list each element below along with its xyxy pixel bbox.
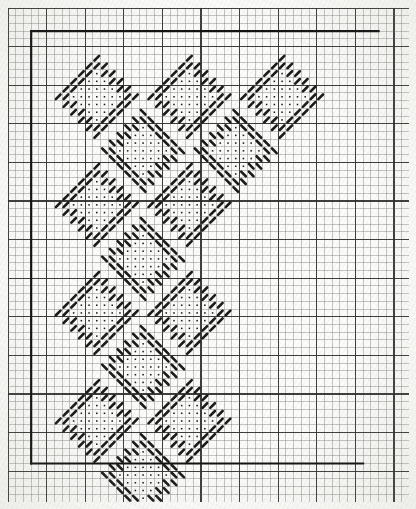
- slash-stitch: [303, 79, 308, 84]
- slash-stitch: [102, 233, 107, 238]
- slash-stitch: [172, 71, 177, 76]
- slash-stitch: [87, 71, 92, 76]
- backslash-stitch: [133, 125, 138, 130]
- backslash-stitch: [118, 488, 123, 493]
- dot-stitch: [165, 258, 167, 260]
- slash-stitch: [172, 334, 177, 339]
- slash-stitch: [210, 303, 215, 308]
- slash-stitch: [102, 179, 107, 184]
- slash-stitch: [79, 287, 84, 292]
- slash-stitch: [125, 318, 130, 323]
- dot-stitch: [274, 81, 276, 83]
- dot-stitch: [81, 212, 83, 214]
- slash-stitch: [203, 334, 208, 339]
- backslash-stitch: [195, 148, 200, 153]
- slash-stitch: [71, 326, 76, 331]
- dot-stitch: [96, 96, 98, 98]
- slash-stitch: [172, 295, 177, 300]
- dot-stitch: [96, 119, 98, 121]
- dot-stitch: [142, 266, 144, 268]
- slash-stitch: [156, 203, 161, 208]
- slash-stitch: [210, 79, 215, 84]
- slash-stitch: [56, 203, 61, 208]
- slash-stitch: [187, 56, 192, 61]
- backslash-stitch: [241, 179, 246, 184]
- dot-stitch: [281, 104, 283, 106]
- dot-stitch: [104, 413, 106, 415]
- dot-stitch: [189, 204, 191, 206]
- backslash-stitch: [148, 496, 153, 501]
- dot-stitch: [196, 212, 198, 214]
- slash-stitch: [210, 426, 215, 431]
- backslash-stitch: [172, 480, 177, 485]
- slash-stitch: [125, 87, 130, 92]
- slash-stitch: [203, 218, 208, 223]
- slash-stitch: [94, 388, 99, 393]
- slash-stitch: [203, 287, 208, 292]
- slash-stitch: [71, 187, 76, 192]
- slash-stitch: [71, 403, 76, 408]
- dot-stitch: [181, 405, 183, 407]
- dot-stitch: [181, 81, 183, 83]
- backslash-stitch: [172, 473, 177, 478]
- dot-stitch: [81, 312, 83, 314]
- backslash-stitch: [156, 172, 161, 177]
- backslash-stitch: [164, 380, 169, 385]
- slash-stitch: [56, 311, 61, 316]
- dot-stitch: [181, 220, 183, 222]
- slash-stitch: [218, 210, 223, 215]
- dot-stitch: [158, 358, 160, 360]
- slash-stitch: [218, 311, 223, 316]
- dot-stitch: [181, 304, 183, 306]
- dot-stitch: [235, 135, 237, 137]
- slash-stitch: [110, 326, 115, 331]
- backslash-stitch: [118, 156, 123, 161]
- backslash-stitch: [118, 357, 123, 362]
- backslash-stitch: [164, 249, 169, 254]
- slash-stitch: [102, 71, 107, 76]
- backslash-stitch: [110, 249, 115, 254]
- dot-stitch: [150, 374, 152, 376]
- graph-paper: [8, 8, 409, 502]
- dot-stitch: [111, 428, 113, 430]
- backslash-stitch: [125, 388, 130, 393]
- backslash-stitch: [141, 187, 146, 192]
- backslash-stitch: [164, 156, 169, 161]
- dot-stitch: [127, 467, 129, 469]
- slash-stitch: [218, 195, 223, 200]
- dot-stitch: [196, 420, 198, 422]
- dot-stitch: [142, 474, 144, 476]
- slash-stitch: [195, 125, 200, 130]
- backslash-stitch: [133, 287, 138, 292]
- slash-stitch: [187, 380, 192, 385]
- backslash-stitch: [218, 133, 223, 138]
- slash-stitch: [179, 233, 184, 238]
- dot-stitch: [119, 258, 121, 260]
- slash-stitch: [210, 87, 215, 92]
- dot-stitch: [189, 320, 191, 322]
- backslash-stitch: [133, 280, 138, 285]
- slash-stitch: [156, 318, 161, 323]
- dot-stitch: [235, 173, 237, 175]
- slash-stitch: [64, 87, 69, 92]
- slash-stitch: [133, 311, 138, 316]
- backslash-stitch: [249, 172, 254, 177]
- dot-stitch: [158, 150, 160, 152]
- dot-stitch: [289, 88, 291, 90]
- backslash-stitch: [257, 141, 262, 146]
- slash-stitch: [280, 125, 285, 130]
- backslash-stitch: [156, 272, 161, 277]
- slash-stitch: [87, 125, 92, 130]
- slash-stitch: [210, 318, 215, 323]
- slash-stitch: [118, 102, 123, 107]
- dot-stitch: [150, 358, 152, 360]
- slash-stitch: [94, 280, 99, 285]
- backslash-stitch: [118, 372, 123, 377]
- slash-stitch: [179, 118, 184, 123]
- backslash-stitch: [141, 434, 146, 439]
- dot-stitch: [165, 204, 167, 206]
- slash-stitch: [94, 457, 99, 462]
- backslash-stitch: [218, 164, 223, 169]
- slash-stitch: [257, 102, 262, 107]
- dot-stitch: [173, 304, 175, 306]
